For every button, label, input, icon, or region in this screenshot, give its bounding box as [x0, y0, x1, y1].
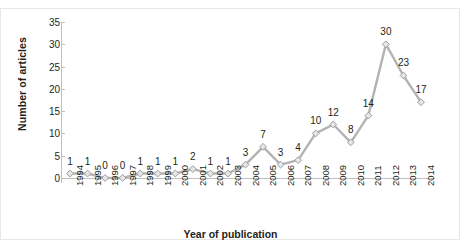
series-line [70, 44, 421, 178]
x-tick-label: 2008 [320, 165, 331, 186]
x-tick-mark [289, 179, 290, 183]
x-tick-mark [79, 179, 80, 183]
x-tick-label: 1995 [92, 165, 103, 186]
x-tick-mark [96, 179, 97, 183]
x-tick-mark [237, 179, 238, 183]
x-tick-mark [307, 179, 308, 183]
y-tick-mark [61, 67, 65, 68]
x-tick-mark [61, 179, 62, 183]
data-point-marker [84, 170, 91, 177]
x-tick-label: 1997 [127, 165, 138, 186]
x-tick-mark [114, 179, 115, 183]
data-point-label: 12 [321, 107, 345, 118]
x-tick-mark [430, 179, 431, 183]
x-tick-label: 2004 [250, 165, 261, 186]
x-tick-mark [324, 179, 325, 183]
x-tick-mark [202, 179, 203, 183]
data-point-label: 14 [356, 98, 380, 109]
y-tick-mark [61, 156, 65, 157]
data-point-label: 30 [374, 26, 398, 37]
data-point-marker [207, 170, 214, 177]
data-point-label: 7 [251, 129, 275, 140]
data-point-label: 23 [391, 57, 415, 68]
x-tick-mark [342, 179, 343, 183]
data-point-marker [119, 175, 126, 182]
data-point-marker [189, 166, 196, 173]
data-point-label: 4 [286, 142, 310, 153]
y-tick-mark [61, 133, 65, 134]
x-tick-mark [131, 179, 132, 183]
x-tick-mark [272, 179, 273, 183]
y-tick-mark [61, 89, 65, 90]
chart-container: Number of articles Year of publication 0… [0, 0, 461, 248]
data-point-label: 17 [409, 84, 433, 95]
data-point-marker [154, 170, 161, 177]
x-tick-mark [395, 179, 396, 183]
x-tick-mark [254, 179, 255, 183]
y-tick-mark [61, 44, 65, 45]
x-tick-mark [184, 179, 185, 183]
data-point-label: 3 [234, 147, 258, 158]
x-tick-mark [167, 179, 168, 183]
x-tick-mark [377, 179, 378, 183]
x-tick-mark [219, 179, 220, 183]
y-tick-mark [61, 22, 65, 23]
x-tick-label: 2006 [285, 165, 296, 186]
data-point-marker [67, 170, 74, 177]
x-tick-mark [412, 179, 413, 183]
y-tick-mark [61, 111, 65, 112]
x-tick-mark [360, 179, 361, 183]
x-tick-mark [149, 179, 150, 183]
plot-area: 110011121137341012814302317 [0, 0, 461, 248]
data-point-label: 8 [339, 124, 363, 135]
